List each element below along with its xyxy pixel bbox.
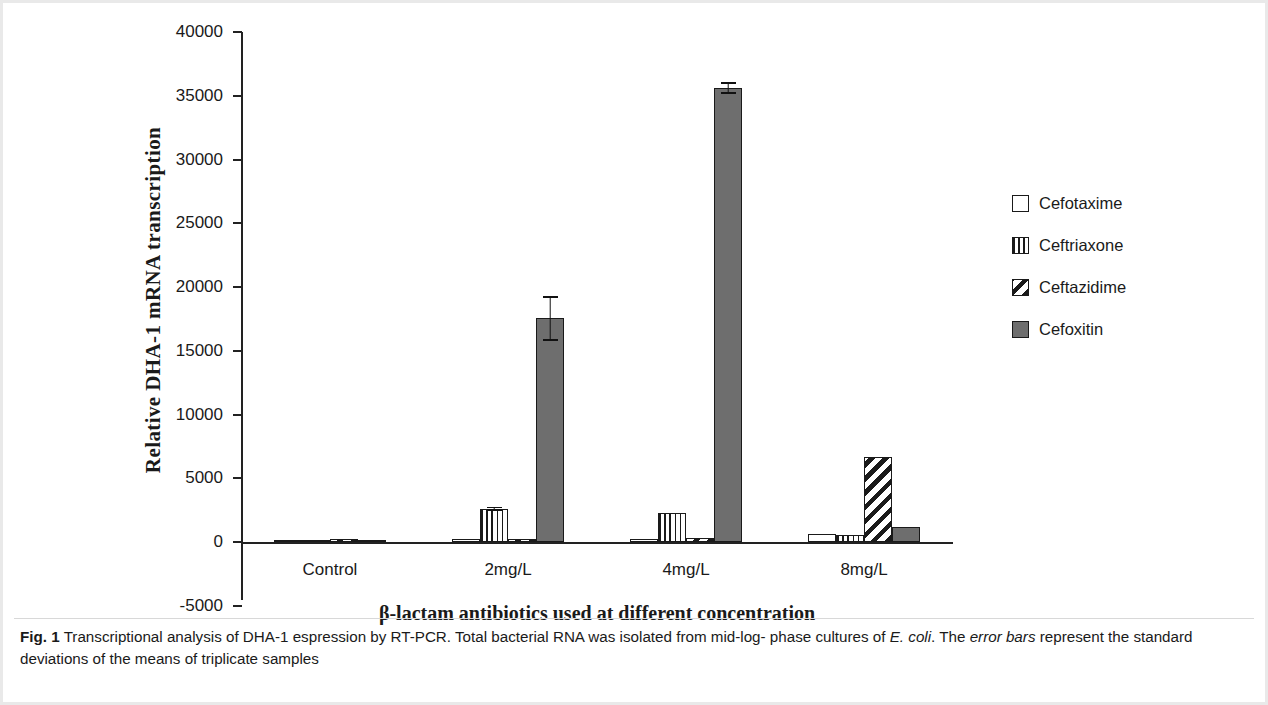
y-axis-tick-label: 40000 <box>159 23 223 40</box>
error-bar <box>550 296 551 341</box>
bar-slot <box>892 32 920 542</box>
bar-ceftriaxone-8mgl[interactable] <box>836 535 864 542</box>
y-axis-title: Relative DHA-1 mRNA transcription <box>141 90 166 510</box>
y-axis-tick-label: 5000 <box>159 469 223 486</box>
bar-cefotaxime-2mgl[interactable] <box>452 539 480 542</box>
bar-cefotaxime-4mgl[interactable] <box>630 539 658 542</box>
bar-slot <box>630 32 658 542</box>
bar-slot <box>274 32 302 542</box>
legend-swatch-icon <box>1012 237 1029 254</box>
y-axis-tick-label: 10000 <box>159 406 223 423</box>
figure-caption: Fig. 1 Transcriptional analysis of DHA-1… <box>20 626 1250 670</box>
caption-italic-species: E. coli <box>890 628 931 645</box>
legend-swatch-icon <box>1012 321 1029 338</box>
bar-cefoxitin-8mgl[interactable] <box>892 527 920 542</box>
bar-group <box>419 32 597 542</box>
error-bar-cap-bottom <box>543 339 558 341</box>
error-bar-cap-bottom <box>487 509 502 511</box>
legend-item-cefotaxime[interactable]: Cefotaxime <box>1012 182 1192 224</box>
y-axis-tick-label: 15000 <box>159 342 223 359</box>
legend-label: Ceftriaxone <box>1039 236 1123 255</box>
error-bar-cap-top <box>487 507 502 509</box>
bar-cefotaxime-8mgl[interactable] <box>808 534 836 542</box>
bar-slot <box>808 32 836 542</box>
bar-cefotaxime-control[interactable] <box>274 540 302 542</box>
bar-slot <box>302 32 330 542</box>
legend-item-ceftazidime[interactable]: Ceftazidime <box>1012 266 1192 308</box>
error-bar-cap-top <box>543 296 558 298</box>
bar-group <box>597 32 775 542</box>
bar-cefoxitin-4mgl[interactable] <box>714 88 742 542</box>
bar-slot <box>358 32 386 542</box>
bar-cefoxitin-control[interactable] <box>358 540 386 542</box>
x-axis-line <box>241 542 953 544</box>
bar-groups <box>241 32 953 542</box>
x-axis-label-4mgl: 4mg/L <box>597 560 775 580</box>
bar-ceftriaxone-2mgl[interactable] <box>480 509 508 542</box>
bar-slot <box>330 32 358 542</box>
chart-plot-area: -500005000100001500020000250003000035000… <box>0 0 1268 600</box>
error-bar-cap-bottom <box>721 92 736 94</box>
chart-legend: CefotaximeCeftriaxoneCeftazidimeCefoxiti… <box>1012 182 1192 350</box>
bar-slot <box>452 32 480 542</box>
y-axis-tick-label: 25000 <box>159 214 223 231</box>
legend-label: Cefotaxime <box>1039 194 1122 213</box>
error-bar <box>494 507 495 512</box>
legend-swatch-icon <box>1012 279 1029 296</box>
bar-slot <box>658 32 686 542</box>
bar-ceftazidime-control[interactable] <box>330 539 358 542</box>
bar-ceftriaxone-4mgl[interactable] <box>658 513 686 542</box>
y-axis-tick-label: -5000 <box>159 597 223 614</box>
bar-slot <box>864 32 892 542</box>
bar-slot <box>480 32 508 542</box>
bar-ceftazidime-8mgl[interactable] <box>864 457 892 542</box>
bar-group <box>775 32 953 542</box>
error-bar-stem <box>549 296 551 341</box>
caption-text-1: Transcriptional analysis of DHA-1 espres… <box>64 628 890 645</box>
bar-cefoxitin-2mgl[interactable] <box>536 318 564 542</box>
bar-slot <box>714 32 742 542</box>
caption-italic-errorbars: error bars <box>970 628 1036 645</box>
legend-item-cefoxitin[interactable]: Cefoxitin <box>1012 308 1192 350</box>
x-axis-label-8mgl: 8mg/L <box>775 560 953 580</box>
bar-ceftazidime-4mgl[interactable] <box>686 538 714 542</box>
bar-slot <box>508 32 536 542</box>
x-axis-title: β-lactam antibiotics used at different c… <box>241 602 953 625</box>
figure-panel: -500005000100001500020000250003000035000… <box>0 0 1268 705</box>
y-axis-tick-label: 35000 <box>159 87 223 104</box>
caption-figure-number: Fig. 1 <box>20 628 60 645</box>
legend-swatch-icon <box>1012 195 1029 212</box>
caption-text-2: . The <box>931 628 970 645</box>
legend-label: Cefoxitin <box>1039 320 1103 339</box>
y-axis-tick-label: 0 <box>159 533 223 550</box>
bar-slot <box>686 32 714 542</box>
x-axis-label-control: Control <box>241 560 419 580</box>
legend-label: Ceftazidime <box>1039 278 1126 297</box>
error-bar <box>728 82 729 93</box>
bar-slot <box>536 32 564 542</box>
bar-ceftazidime-2mgl[interactable] <box>508 539 536 542</box>
bar-group <box>241 32 419 542</box>
y-axis-tick-label: 30000 <box>159 151 223 168</box>
y-axis-tick-label: 20000 <box>159 278 223 295</box>
bar-ceftriaxone-control[interactable] <box>302 540 330 542</box>
error-bar-cap-top <box>721 82 736 84</box>
caption-divider <box>14 618 1254 619</box>
legend-item-ceftriaxone[interactable]: Ceftriaxone <box>1012 224 1192 266</box>
x-axis-label-2mgl: 2mg/L <box>419 560 597 580</box>
bar-slot <box>836 32 864 542</box>
